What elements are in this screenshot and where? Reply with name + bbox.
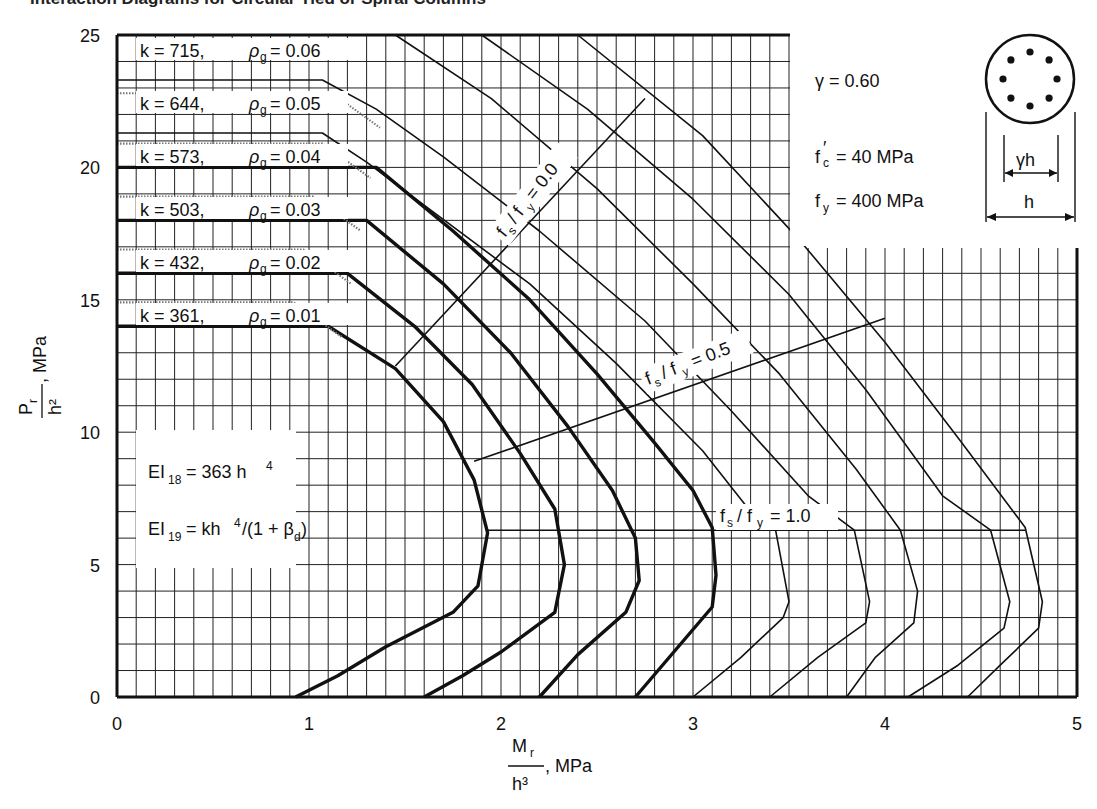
svg-text:= 363 h: = 363 h [186, 462, 247, 482]
svg-text:, MPa: , MPa [30, 335, 50, 383]
svg-text:25: 25 [80, 26, 100, 46]
svg-text:k = 644,: k = 644, [140, 94, 205, 114]
fy-value: = 400 MPa [836, 191, 925, 211]
y-axis-label: P r h² , MPa [16, 335, 65, 418]
h-label: h [1024, 192, 1034, 212]
svg-text:g: g [260, 262, 267, 276]
svg-text:h³: h³ [512, 774, 528, 794]
curve-label-005: k = 644, ρg = 0.05 [136, 91, 348, 117]
svg-text:4: 4 [234, 516, 241, 530]
svg-text:ρ: ρ [248, 306, 259, 326]
svg-text:18: 18 [168, 473, 182, 487]
stress-line [474, 318, 885, 461]
svg-text:= 0.01: = 0.01 [270, 306, 321, 326]
curve-0.06 [117, 80, 870, 697]
svg-text:= 1.0: = 1.0 [770, 506, 811, 526]
svg-text:k = 432,: k = 432, [140, 253, 205, 273]
svg-text:, MPa: , MPa [545, 756, 593, 776]
y-axis-ticks: 0510152025 [80, 26, 100, 708]
svg-text:0: 0 [112, 714, 122, 734]
svg-text:= 0.06: = 0.06 [270, 41, 321, 61]
svg-text:ρ: ρ [248, 94, 259, 114]
svg-text:g: g [260, 50, 267, 64]
curve-label-006: k = 715, ρg = 0.06 [136, 38, 348, 64]
svg-text:20: 20 [80, 158, 100, 178]
svg-text:ρ: ρ [248, 41, 259, 61]
svg-text:ρ: ρ [248, 253, 259, 273]
svg-text:/(1 + β: /(1 + β [242, 519, 294, 539]
svg-text:M: M [512, 736, 527, 756]
svg-text:= 0.05: = 0.05 [270, 94, 321, 114]
svg-text:5: 5 [90, 556, 100, 576]
svg-text:= kh: = kh [186, 519, 221, 539]
svg-text:4: 4 [266, 459, 273, 473]
fc-value: = 40 MPa [836, 147, 915, 167]
svg-text:10: 10 [80, 423, 100, 443]
svg-text:/ f: / f [737, 506, 753, 526]
svg-text:g: g [260, 103, 267, 117]
svg-text:s: s [727, 516, 733, 530]
stress-label-1-0: fs / fy = 1.0 [716, 504, 838, 530]
svg-text:15: 15 [80, 291, 100, 311]
gamma-value: γ = 0.60 [815, 71, 880, 91]
svg-text:h²: h² [45, 399, 65, 415]
svg-text:ρ: ρ [248, 147, 259, 167]
svg-text:g: g [260, 209, 267, 223]
svg-text:k = 361,: k = 361, [140, 306, 205, 326]
svg-text:g: g [260, 156, 267, 170]
svg-text:y: y [823, 201, 829, 215]
svg-text:0: 0 [90, 688, 100, 708]
figure-title: Interaction Diagrams for Circular Tied o… [30, 0, 486, 8]
svg-text:k = 715,: k = 715, [140, 41, 205, 61]
gamma-h-label: γh [1016, 150, 1035, 170]
interaction-chart: Interaction Diagrams for Circular Tied o… [0, 0, 1097, 809]
svg-text:r: r [530, 746, 534, 760]
svg-text:P: P [16, 403, 36, 415]
svg-text:r: r [26, 399, 40, 403]
svg-text:c: c [823, 156, 829, 170]
svg-text:EI: EI [148, 519, 165, 539]
x-axis-ticks: 012345 [112, 714, 1082, 734]
svg-text:19: 19 [168, 530, 182, 544]
svg-text:1: 1 [304, 714, 314, 734]
svg-text:= 0.03: = 0.03 [270, 200, 321, 220]
svg-text:ρ: ρ [248, 200, 259, 220]
svg-text:= 0.02: = 0.02 [270, 253, 321, 273]
svg-text:k = 503,: k = 503, [140, 200, 205, 220]
svg-text:= 0.04: = 0.04 [270, 147, 321, 167]
svg-text:k = 573,: k = 573, [140, 147, 205, 167]
svg-text:EI: EI [148, 462, 165, 482]
svg-text:4: 4 [880, 714, 890, 734]
svg-text:3: 3 [688, 714, 698, 734]
curve-labels: k = 715, ρg = 0.06 k = 644, ρg = 0.05 k … [136, 38, 348, 329]
svg-text:y: y [757, 516, 763, 530]
svg-text:2: 2 [496, 714, 506, 734]
svg-text:5: 5 [1072, 714, 1082, 734]
svg-text:d: d [294, 530, 301, 544]
svg-text:): ) [301, 519, 307, 539]
x-axis-label: M r h³ , MPa [508, 736, 593, 794]
svg-text:g: g [260, 315, 267, 329]
